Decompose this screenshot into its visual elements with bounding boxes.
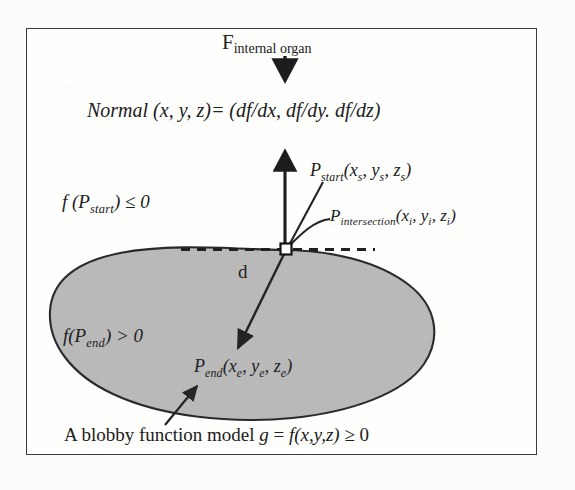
distance-label-text: d bbox=[238, 261, 248, 282]
force-label-base: F bbox=[222, 30, 234, 54]
f-p-end-tail: ) > 0 bbox=[105, 325, 143, 346]
p-start-subscript: start bbox=[321, 170, 344, 184]
force-label: Finternal organ bbox=[222, 32, 312, 53]
caption-function: f(x,y,z) bbox=[289, 424, 340, 445]
p-intersection-coords-close: ) bbox=[450, 206, 456, 225]
p-end-base: P bbox=[194, 356, 205, 376]
f-p-start-subscript: start bbox=[90, 202, 114, 216]
f-p-end-subscript: end bbox=[86, 336, 105, 350]
intersection-point-marker bbox=[281, 244, 292, 255]
figure-page: Finternal organ Normal (x, y, z)= (df/dx… bbox=[0, 0, 575, 490]
p-start-leader-line bbox=[287, 182, 323, 249]
p-start-coord-mid-2: , z bbox=[384, 160, 400, 180]
p-end-subscript: end bbox=[205, 366, 223, 380]
p-intersection-leader-line bbox=[288, 219, 330, 247]
caption-lead: A blobby function model bbox=[64, 424, 259, 445]
caption-g: g bbox=[259, 424, 269, 445]
p-start-coords-open: (x bbox=[344, 160, 358, 180]
p-start-label: Pstart(xs, ys, zs) bbox=[310, 161, 411, 183]
p-intersection-coord-mid-2: , z bbox=[432, 206, 447, 225]
p-start-base: P bbox=[310, 160, 321, 180]
diagram-canvas bbox=[0, 0, 575, 490]
p-end-coord-mid-2: , z bbox=[265, 356, 281, 376]
p-intersection-label: Pintersection(xi, yi, zi) bbox=[330, 207, 456, 228]
p-intersection-coords-open: (x bbox=[396, 206, 409, 225]
f-p-start-label: f (Pstart) ≤ 0 bbox=[62, 192, 150, 215]
p-end-coord-mid-1: , y bbox=[242, 356, 259, 376]
normal-equation-label: Normal (x, y, z)= (df/dx, df/dy. df/dz) bbox=[87, 100, 380, 120]
distance-label: d bbox=[238, 262, 248, 281]
caption-tail: ≥ 0 bbox=[340, 424, 369, 445]
p-end-label: Pend(xe, ye, ze) bbox=[194, 357, 292, 379]
caption-equals: = bbox=[269, 424, 289, 445]
f-p-end-label: f(Pend) > 0 bbox=[63, 326, 143, 349]
p-intersection-coord-mid-1: , y bbox=[412, 206, 428, 225]
p-intersection-base: P bbox=[330, 206, 340, 225]
f-p-start-tail: ) ≤ 0 bbox=[114, 191, 150, 212]
p-end-coords-open: (x bbox=[223, 356, 237, 376]
normal-equation-text: Normal (x, y, z)= (df/dx, df/dy. df/dz) bbox=[87, 99, 380, 121]
p-start-coord-mid-1: , y bbox=[363, 160, 380, 180]
p-end-coords-close: ) bbox=[286, 356, 292, 376]
figure-caption: A blobby function model g = f(x,y,z) ≥ 0 bbox=[64, 425, 369, 444]
f-p-end-base: f(P bbox=[63, 325, 86, 346]
p-start-coords-close: ) bbox=[405, 160, 411, 180]
p-intersection-subscript: intersection bbox=[340, 215, 395, 227]
f-p-start-base: f (P bbox=[62, 191, 90, 212]
force-label-subscript: internal organ bbox=[234, 41, 312, 56]
